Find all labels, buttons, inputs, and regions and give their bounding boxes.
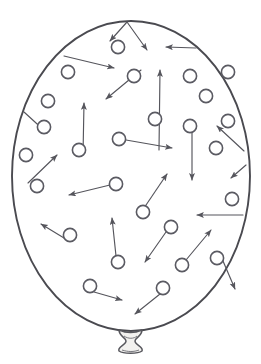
- gas-molecule: [199, 89, 212, 102]
- gas-molecule: [127, 69, 140, 82]
- gas-molecule: [111, 255, 124, 268]
- gas-molecule: [83, 279, 96, 292]
- gas-molecule: [221, 65, 234, 78]
- gas-molecule: [175, 258, 188, 271]
- balloon-membrane-group: [12, 21, 250, 331]
- gas-molecule: [61, 65, 74, 78]
- gas-molecule: [111, 40, 124, 53]
- gas-molecule: [209, 141, 222, 154]
- gas-molecule: [112, 132, 125, 145]
- gas-molecule: [210, 251, 223, 264]
- gas-molecule: [225, 192, 238, 205]
- gas-molecule: [183, 69, 196, 82]
- balloon-knot-group: [119, 330, 143, 353]
- gas-molecule: [41, 94, 54, 107]
- gas-molecule: [19, 148, 32, 161]
- gas-molecule: [164, 220, 177, 233]
- balloon-diagram-svg: [0, 0, 261, 364]
- gas-molecule: [136, 205, 149, 218]
- balloon-figure: Balloon filled with gas molecules in ran…: [0, 0, 261, 364]
- gas-molecule: [221, 114, 234, 127]
- gas-molecule: [72, 143, 85, 156]
- gas-molecule: [37, 120, 50, 133]
- gas-molecule: [109, 177, 122, 190]
- gas-molecule: [156, 281, 169, 294]
- balloon-outline: [12, 21, 250, 331]
- gas-molecule: [183, 119, 196, 132]
- gas-molecule: [148, 112, 161, 125]
- gas-molecule: [63, 228, 76, 241]
- gas-molecule: [30, 179, 43, 192]
